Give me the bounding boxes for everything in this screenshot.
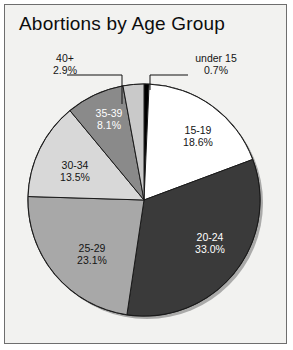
- slice-label-25-29: 25-29 23.1%: [64, 243, 120, 267]
- chart-frame: Abortions by Age Group 40+ 2.9% under 15…: [4, 4, 287, 344]
- slice-label-under-15: under 15 0.7%: [183, 53, 249, 77]
- slice-label-20-24: 20-24 33.0%: [182, 232, 238, 256]
- slice-label-30-34: 30-34 13.5%: [47, 160, 103, 184]
- slice-label-40plus: 40+ 2.9%: [35, 53, 95, 77]
- pie-slices: [28, 84, 260, 316]
- slice-label-15-19: 15-19 18.6%: [170, 125, 226, 149]
- slice-label-35-39: 35-39 8.1%: [81, 108, 137, 132]
